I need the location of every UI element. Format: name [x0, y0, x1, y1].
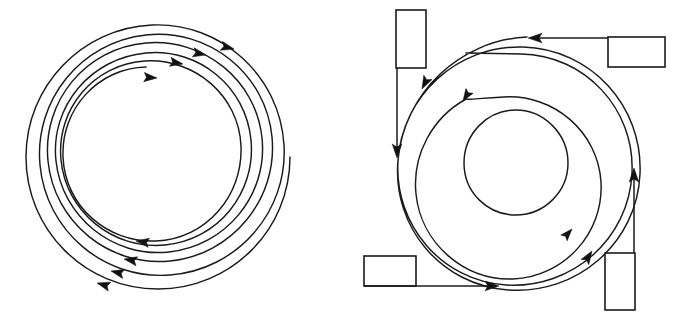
box-top-left[interactable] [396, 10, 426, 68]
spiral-diagram-figure [0, 0, 675, 315]
box-bottom-right[interactable] [605, 253, 635, 310]
box-bottom-left[interactable] [364, 256, 416, 286]
box-top-right[interactable] [608, 37, 665, 67]
figure-background [0, 0, 675, 315]
